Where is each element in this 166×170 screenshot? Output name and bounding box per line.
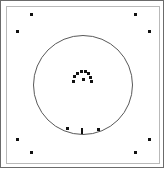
main-circle-outline [33,35,133,135]
data-point [16,30,19,33]
data-point [80,70,83,73]
data-point [16,138,19,141]
data-point [87,72,90,75]
data-point [81,128,83,134]
data-point [89,76,92,79]
data-point [72,80,75,83]
data-point [30,13,33,16]
data-point [134,13,137,16]
data-point [66,127,69,130]
figure-root [0,0,166,170]
data-point [90,80,93,83]
data-point [73,75,76,78]
data-point [134,151,137,154]
data-point [148,138,151,141]
data-point [76,72,79,75]
data-point [148,30,151,33]
data-point [30,151,33,154]
data-point [82,78,85,81]
data-point [97,128,100,131]
